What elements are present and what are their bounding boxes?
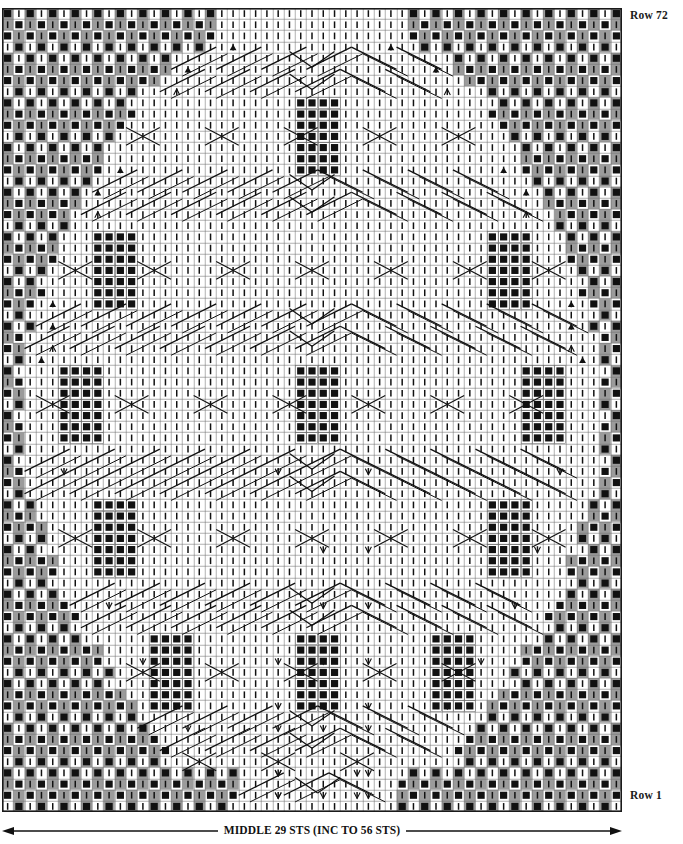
chart-caption: MIDDLE 29 STS (INC TO 56 STS) bbox=[2, 818, 622, 842]
chart-caption-area: MIDDLE 29 STS (INC TO 56 STS) bbox=[2, 818, 622, 842]
stitch-chart-grid[interactable] bbox=[2, 8, 622, 812]
row-label-top: Row 72 bbox=[630, 9, 668, 21]
stitch-chart[interactable] bbox=[2, 8, 622, 812]
chart-caption-text: MIDDLE 29 STS (INC TO 56 STS) bbox=[218, 824, 406, 836]
row-label-bottom: Row 1 bbox=[630, 789, 662, 801]
chart-page: Row 72 Row 1 MIDDLE 29 STS (INC TO 56 ST… bbox=[0, 0, 683, 844]
